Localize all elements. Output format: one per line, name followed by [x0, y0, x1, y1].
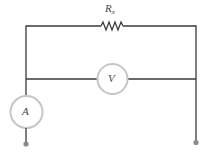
resistor-zigzag	[101, 22, 123, 30]
resistor-label-main: R	[105, 2, 112, 14]
circuit-diagram: Rx V A	[0, 0, 210, 155]
resistor-label: Rx	[105, 3, 115, 16]
top-left-wire	[26, 26, 101, 79]
ammeter-label: A	[22, 106, 29, 117]
right-lead	[193, 79, 198, 145]
left-terminal-icon	[23, 141, 28, 146]
voltmeter-label: V	[108, 73, 115, 84]
circuit-schematic	[0, 0, 210, 155]
resistor-label-subscript: x	[112, 8, 115, 16]
top-right-wire	[123, 26, 196, 79]
right-terminal-icon	[193, 140, 198, 145]
